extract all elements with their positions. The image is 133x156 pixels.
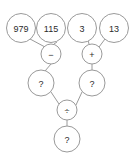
node-leaf-13[interactable]: 13: [100, 14, 129, 43]
minus-icon: −: [48, 50, 53, 60]
edge-13-to-plus: [99, 39, 105, 47]
node-label-979: 979: [13, 24, 28, 34]
divide-icon: ÷: [65, 106, 70, 116]
node-result-right[interactable]: ?: [79, 70, 105, 96]
node-leaf-979[interactable]: 979: [7, 14, 36, 43]
plus-icon: +: [89, 50, 94, 60]
node-operator-plus[interactable]: +: [82, 44, 102, 64]
node-result-root[interactable]: ?: [54, 126, 80, 152]
edge-result-right-to-divide: [76, 92, 82, 105]
node-leaf-3[interactable]: 3: [68, 14, 97, 43]
node-leaf-115[interactable]: 115: [37, 14, 66, 43]
node-label-result-root: ?: [64, 135, 69, 145]
edge-minus-to-result-left: [45, 64, 51, 71]
node-label-13: 13: [109, 24, 119, 34]
node-label-3: 3: [79, 24, 84, 34]
expression-tree-diagram: 979 115 3 13 − + ? ?: [0, 0, 133, 156]
edge-result-left-to-divide: [51, 92, 59, 104]
node-operator-divide[interactable]: ÷: [57, 100, 77, 120]
tree-canvas: 979 115 3 13 − + ? ?: [0, 0, 133, 156]
node-operator-minus[interactable]: −: [41, 44, 61, 64]
node-label-115: 115: [44, 24, 58, 34]
node-label-result-left: ?: [38, 79, 43, 89]
node-result-left[interactable]: ?: [28, 70, 54, 96]
node-label-result-right: ?: [89, 79, 94, 89]
